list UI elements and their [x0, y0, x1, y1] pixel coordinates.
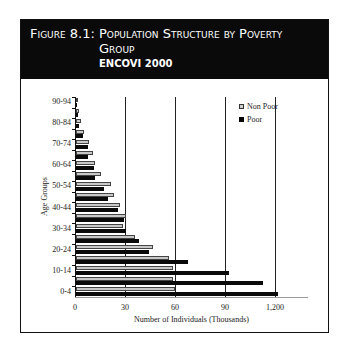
- bar-poor: [76, 250, 149, 254]
- legend: Non Poor Poor: [239, 100, 278, 126]
- bar-non-poor: [76, 245, 153, 249]
- y-tick-label: 70-74: [45, 139, 71, 148]
- bar-non-poor: [76, 235, 135, 239]
- y-tick-mark: [72, 255, 75, 256]
- y-tick-mark: [72, 223, 75, 224]
- x-tick-label: 30: [110, 303, 140, 312]
- bar-poor: [76, 113, 78, 117]
- figure-number: Figure 8.1:: [30, 26, 95, 41]
- bar-poor: [76, 208, 118, 212]
- y-tick-mark: [72, 129, 75, 130]
- non-poor-swatch-icon: [239, 104, 244, 109]
- y-tick-mark: [72, 150, 75, 151]
- y-tick-mark: [72, 108, 75, 109]
- figure-title: Population Structure by Poverty Group: [99, 26, 299, 56]
- bar-poor: [76, 166, 94, 170]
- bar-non-poor: [76, 287, 175, 291]
- gridline: [275, 97, 276, 297]
- x-tick-label: 90: [210, 303, 240, 312]
- bar-non-poor: [76, 98, 78, 102]
- bar-non-poor: [76, 214, 126, 218]
- legend-item-poor: Poor: [239, 113, 278, 126]
- y-tick-mark: [72, 234, 75, 235]
- bar-non-poor: [76, 277, 173, 281]
- legend-item-non-poor: Non Poor: [239, 100, 278, 113]
- bar-non-poor: [76, 256, 169, 260]
- y-tick-mark: [72, 192, 75, 193]
- y-tick-label: 30-34: [45, 224, 71, 233]
- bar-non-poor: [76, 161, 95, 165]
- y-tick-label: 80-84: [45, 118, 71, 127]
- x-tick-label: 1,200: [260, 303, 290, 312]
- bar-poor: [76, 229, 126, 233]
- bar-poor: [76, 239, 139, 243]
- bar-non-poor: [76, 266, 173, 270]
- bar-poor: [76, 281, 263, 285]
- bar-poor: [76, 176, 95, 180]
- bar-non-poor: [76, 119, 81, 123]
- bar-non-poor: [76, 193, 114, 197]
- y-tick-mark: [72, 244, 75, 245]
- bar-non-poor: [76, 140, 89, 144]
- x-axis-label: Number of Individuals (Thousands): [75, 315, 308, 324]
- bar-non-poor: [76, 203, 120, 207]
- y-tick-mark: [72, 160, 75, 161]
- y-tick-mark: [72, 139, 75, 140]
- y-tick-mark: [72, 276, 75, 277]
- y-tick-label: 20-24: [45, 245, 71, 254]
- bar-non-poor: [76, 182, 111, 186]
- y-tick-mark: [72, 97, 75, 98]
- bar-poor: [76, 103, 77, 107]
- y-tick-label: 60-64: [45, 160, 71, 169]
- bar-poor: [76, 187, 104, 191]
- bar-poor: [76, 271, 229, 275]
- bar-non-poor: [76, 130, 84, 134]
- y-tick-mark: [72, 286, 75, 287]
- y-tick-mark: [72, 265, 75, 266]
- y-tick-mark: [72, 213, 75, 214]
- bar-poor: [76, 155, 88, 159]
- gridline: [175, 97, 176, 297]
- plot-area: Age Groups Non Poor Poor Number of Indiv…: [75, 97, 308, 297]
- bar-non-poor: [76, 172, 101, 176]
- y-tick-label: 40-44: [45, 203, 71, 212]
- y-tick-label: 90-94: [45, 97, 71, 106]
- bar-non-poor: [76, 151, 93, 155]
- y-tick-label: 0-4: [45, 287, 71, 296]
- y-tick-mark: [72, 118, 75, 119]
- x-tick-label: 60: [160, 303, 190, 312]
- y-tick-label: 10-14: [45, 266, 71, 275]
- legend-label: Poor: [247, 115, 262, 124]
- figure-frame: Figure 8.1: Population Structure by Pove…: [20, 19, 329, 333]
- y-tick-label: 50-54: [45, 181, 71, 190]
- y-tick-mark: [72, 171, 75, 172]
- y-tick-mark: [72, 202, 75, 203]
- bar-non-poor: [76, 224, 123, 228]
- bar-poor: [76, 218, 124, 222]
- bar-poor: [76, 260, 188, 264]
- x-tick-label: 0: [60, 303, 90, 312]
- bar-poor: [76, 145, 88, 149]
- x-axis: [75, 297, 308, 298]
- bar-poor: [76, 197, 108, 201]
- figure-header: Figure 8.1: Population Structure by Pove…: [21, 20, 328, 79]
- figure-subtitle: ENCOVI 2000: [99, 58, 173, 69]
- legend-label: Non Poor: [247, 102, 278, 111]
- y-tick-mark: [72, 181, 75, 182]
- gridline: [225, 97, 226, 297]
- bar-non-poor: [76, 109, 79, 113]
- bar-poor: [76, 124, 79, 128]
- poor-swatch-icon: [239, 117, 244, 122]
- bar-poor: [76, 292, 278, 296]
- bar-poor: [76, 134, 83, 138]
